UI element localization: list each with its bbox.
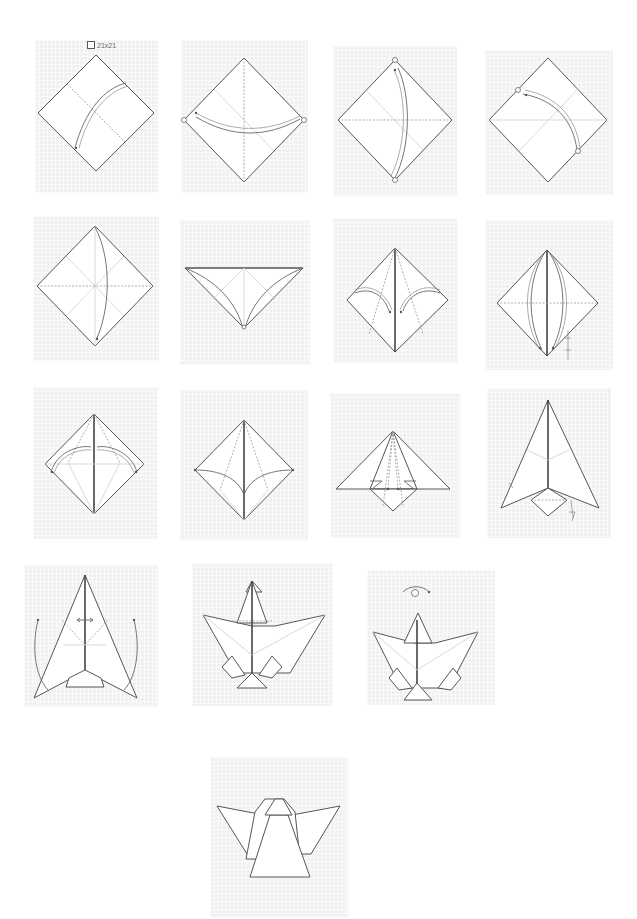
step-6-drawing	[180, 220, 310, 365]
step-15-drawing	[367, 570, 495, 705]
corner-marker-top	[393, 58, 398, 63]
step-9-panel	[33, 387, 158, 539]
step-16-drawing	[210, 757, 348, 917]
step-1-drawing	[35, 40, 158, 193]
step-4-drawing	[485, 50, 613, 195]
step-4-panel	[485, 50, 613, 195]
corner-marker-bottom	[393, 178, 398, 183]
step-12-drawing	[487, 388, 611, 538]
step-8-drawing	[485, 220, 613, 370]
step-11-drawing	[330, 393, 460, 538]
step-10-drawing	[180, 390, 308, 540]
step-10-panel	[180, 390, 308, 540]
step-14-drawing	[192, 563, 333, 706]
edge-marker-upper	[516, 88, 521, 93]
corner-marker-left	[182, 118, 187, 123]
step-2-panel	[181, 40, 308, 193]
step-11-panel	[330, 393, 460, 538]
step-5-drawing	[33, 216, 159, 361]
step-6-panel	[180, 220, 310, 365]
step-13-panel	[24, 565, 158, 707]
step-15-panel	[367, 570, 495, 705]
step-1-panel: 21x21	[35, 40, 158, 193]
repeat-arrow	[569, 500, 575, 521]
step-7-drawing	[333, 218, 458, 363]
turn-over-icon	[403, 587, 430, 597]
step-7-panel	[333, 218, 458, 363]
step-12-panel	[487, 388, 611, 538]
step-8-panel	[485, 220, 613, 370]
step-9-drawing	[33, 387, 158, 539]
step-16-panel	[210, 757, 348, 917]
bottom-point-marker	[242, 325, 246, 329]
step-3-drawing	[333, 46, 457, 196]
edge-marker-lower	[576, 149, 581, 154]
step-13-drawing	[24, 565, 158, 707]
step-14-panel	[192, 563, 333, 706]
step-5-panel	[33, 216, 159, 361]
corner-marker-right	[302, 118, 307, 123]
step-3-panel	[333, 46, 457, 196]
step-2-drawing	[181, 40, 308, 193]
